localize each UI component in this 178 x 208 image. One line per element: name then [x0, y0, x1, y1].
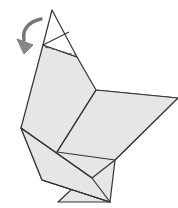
origami-diagram: [0, 0, 178, 208]
curved-fold-arrow-icon: [24, 19, 41, 40]
